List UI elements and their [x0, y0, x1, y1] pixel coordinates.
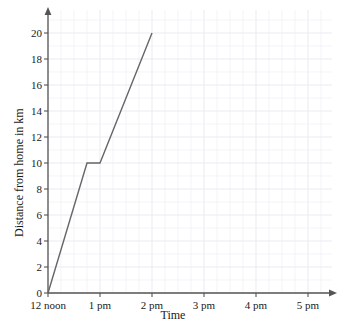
y-axis-title: Distance from home in km — [12, 108, 27, 237]
x-axis-line — [48, 290, 337, 297]
y-tick-label: 16 — [20, 80, 42, 91]
y-tick-label: 0 — [20, 288, 42, 299]
y-tick-label: 4 — [20, 236, 42, 247]
chart-page: 02468101214161820 12 noon1 pm2 pm3 pm4 p… — [0, 0, 346, 325]
distance-time-line-chart — [0, 0, 346, 325]
minor-gridlines — [48, 10, 332, 293]
y-tick-label: 2 — [20, 262, 42, 273]
x-axis-title: Time — [0, 308, 346, 323]
y-tick-label: 18 — [20, 54, 42, 65]
major-gridlines — [48, 10, 332, 293]
y-tick-label: 20 — [20, 28, 42, 39]
